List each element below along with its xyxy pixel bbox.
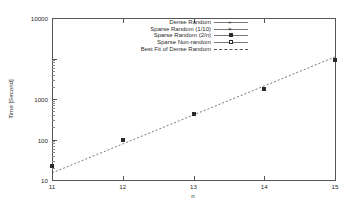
legend-sample-cross-icon: + — [214, 19, 248, 25]
y-tick-label-100: 100 — [26, 136, 48, 143]
x-tick-label-15: 15 — [332, 183, 339, 190]
legend-label: Dense Random — [169, 19, 214, 25]
legend-label: Sparse Random (1/10) — [150, 26, 214, 32]
legend-label: Best Fit of Dense Random — [141, 46, 214, 52]
legend-item-sparse-random-1-10: Sparse Random (1/10) × — [60, 26, 248, 33]
chart-container: 10 100 1000 10000 Time [Second] 11 12 13… — [0, 0, 356, 208]
legend-label: Sparse Random (2/n) — [154, 32, 214, 38]
data-point — [121, 138, 125, 142]
legend-sample-x-icon: × — [214, 26, 248, 32]
plot-right-border — [335, 18, 336, 180]
legend-item-sparse-non-random: Sparse Non-random — [60, 39, 248, 46]
y-tick-label-10: 10 — [26, 177, 48, 184]
x-tick-label-11: 11 — [49, 183, 55, 190]
y-tick-label-1000: 1000 — [26, 96, 48, 103]
y-tick-label-10000: 10000 — [26, 15, 48, 22]
x-axis-title: n — [191, 192, 194, 199]
x-tick-15 — [335, 176, 336, 181]
legend-sample-filled-square-icon — [214, 32, 248, 38]
x-tick-label-13: 13 — [190, 183, 197, 190]
x-tick-label-14: 14 — [261, 183, 268, 190]
data-point — [333, 58, 337, 62]
legend-item-best-fit: Best Fit of Dense Random — [60, 45, 248, 52]
data-point — [50, 164, 54, 168]
legend-sample-open-square-icon — [214, 39, 248, 45]
data-point — [262, 87, 266, 91]
legend-label: Sparse Non-random — [157, 39, 214, 45]
y-axis-title: Time [Second] — [7, 79, 14, 119]
legend: Dense Random + Sparse Random (1/10) × Sp… — [60, 19, 248, 52]
legend-item-dense-random: Dense Random + — [60, 19, 248, 26]
data-point — [192, 112, 196, 116]
legend-item-sparse-random-2-n: Sparse Random (2/n) — [60, 32, 248, 39]
x-tick-label-12: 12 — [119, 183, 126, 190]
legend-sample-dashed-line-icon — [214, 46, 248, 52]
